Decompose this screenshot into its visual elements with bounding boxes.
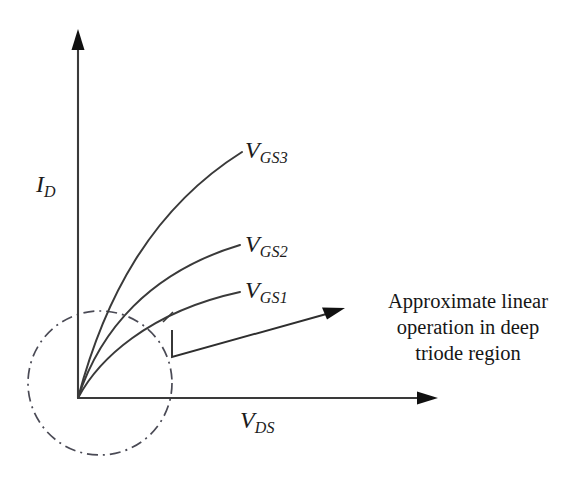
curve-label-vgs2-main: V	[245, 231, 260, 257]
figure-canvas	[0, 0, 578, 484]
curve-vgs3	[78, 152, 242, 398]
curve-label-vgs1: VGS1	[245, 278, 288, 302]
y-axis-label: ID	[36, 172, 56, 196]
y-axis-label-subscript: D	[44, 183, 56, 200]
curve-label-vgs3-subscript: GS3	[260, 149, 288, 166]
curve-label-vgs3-main: V	[245, 137, 260, 163]
x-axis-label-subscript: DS	[255, 419, 275, 436]
mosfet-characteristic-figure: ID VDS VGS3 VGS2 VGS1 Approximate linear…	[0, 0, 578, 484]
annotation-text-block: Approximate linear operation in deep tri…	[368, 288, 568, 367]
circle-curve-intersection-tick	[163, 312, 173, 322]
annotation-line-2: operation in deep	[368, 314, 568, 340]
annotation-line-3: triode region	[368, 340, 568, 366]
annotation-line-1: Approximate linear	[368, 288, 568, 314]
y-axis-arrowhead	[72, 29, 85, 50]
y-axis-label-main: I	[36, 171, 44, 197]
x-axis-label-main: V	[240, 407, 255, 433]
curve-label-vgs2: VGS2	[245, 232, 288, 256]
x-axis-arrowhead	[417, 392, 438, 405]
curve-label-vgs2-subscript: GS2	[260, 243, 288, 260]
annotation-arrowhead	[322, 308, 345, 320]
curve-label-vgs3: VGS3	[245, 138, 288, 162]
annotation-leader-line	[172, 313, 330, 357]
curve-label-vgs1-main: V	[245, 277, 260, 303]
curve-label-vgs1-subscript: GS1	[260, 289, 288, 306]
x-axis-label: VDS	[240, 408, 275, 432]
